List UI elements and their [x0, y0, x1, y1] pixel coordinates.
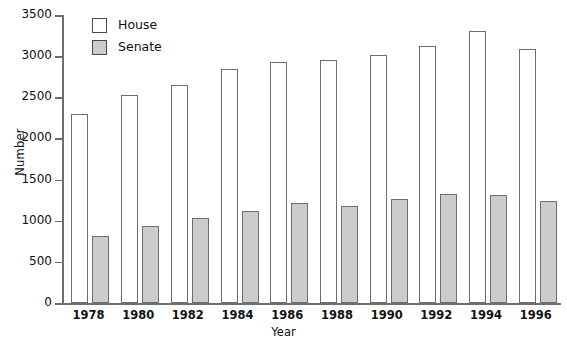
- bar-house-1996: [519, 49, 536, 303]
- y-tick-mark: [55, 97, 63, 99]
- y-tick-label: 1500: [6, 173, 52, 185]
- bar-senate-1982: [192, 218, 209, 303]
- y-tick-label: 3500: [6, 8, 52, 20]
- y-tick-mark: [55, 303, 63, 305]
- bar-senate-1986: [291, 203, 308, 303]
- y-tick-mark: [55, 262, 63, 264]
- y-tick-mark: [55, 138, 63, 140]
- bar-senate-1980: [142, 226, 159, 303]
- bar-senate-1994: [490, 195, 507, 303]
- x-tick-label: 1996: [506, 308, 566, 322]
- y-tick-mark: [55, 15, 63, 17]
- bar-senate-1984: [242, 211, 259, 303]
- bar-group: [461, 15, 511, 303]
- bar-senate-1990: [391, 199, 408, 303]
- bar-senate-1996: [540, 201, 557, 303]
- bar-group: [312, 15, 362, 303]
- y-axis-tick-labels: 0500100015002000250030003500: [0, 0, 52, 346]
- bar-house-1982: [171, 85, 188, 303]
- bar-house-1986: [270, 62, 287, 303]
- x-axis-title: Year: [0, 325, 567, 339]
- y-tick-label: 2500: [6, 90, 52, 102]
- bar-chart: Number 0500100015002000250030003500 1978…: [0, 0, 567, 346]
- legend-item-house: House: [92, 16, 162, 35]
- bar-group: [411, 15, 461, 303]
- y-tick-mark: [55, 221, 63, 223]
- y-tick-label: 3000: [6, 49, 52, 61]
- y-tick-label: 0: [6, 296, 52, 308]
- y-tick-mark: [55, 56, 63, 58]
- bar-house-1994: [469, 31, 486, 303]
- bar-group: [362, 15, 412, 303]
- y-tick-label: 2000: [6, 131, 52, 143]
- bar-house-1990: [370, 55, 387, 303]
- legend-label-senate: Senate: [118, 41, 162, 54]
- bar-senate-1988: [341, 206, 358, 303]
- bar-house-1978: [71, 114, 88, 303]
- legend-swatch-senate-icon: [92, 40, 107, 55]
- legend-item-senate: Senate: [92, 38, 162, 57]
- bar-house-1980: [121, 95, 138, 303]
- bar-group: [163, 15, 213, 303]
- bar-senate-1978: [92, 236, 109, 303]
- bar-house-1992: [419, 46, 436, 303]
- bar-house-1988: [320, 60, 337, 303]
- bar-group: [511, 15, 561, 303]
- bar-senate-1992: [440, 194, 457, 303]
- y-tick-label: 500: [6, 255, 52, 267]
- legend-swatch-house-icon: [92, 18, 107, 33]
- chart-legend: House Senate: [92, 16, 162, 60]
- bar-house-1984: [221, 69, 238, 304]
- legend-label-house: House: [118, 19, 157, 32]
- x-axis-line: [62, 303, 561, 305]
- bar-group: [262, 15, 312, 303]
- y-tick-label: 1000: [6, 214, 52, 226]
- bar-group: [213, 15, 263, 303]
- y-tick-mark: [55, 180, 63, 182]
